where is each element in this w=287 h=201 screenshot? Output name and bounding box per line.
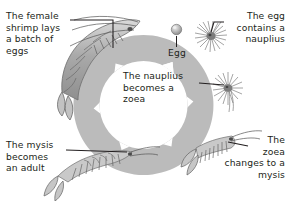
label-mysis-adult: The mysis becomes an adult bbox=[6, 139, 72, 174]
label-nauplius-zoea: The nauplius becomes a zoea bbox=[123, 70, 201, 105]
label-female-shrimp: The female shrimp lays a batch of eggs bbox=[6, 10, 84, 56]
label-egg: Egg bbox=[158, 47, 196, 59]
label-egg-nauplius: The egg contains a nauplius bbox=[213, 10, 285, 45]
label-zoea-mysis: The zoea changes to a mysis bbox=[209, 134, 285, 180]
life-cycle-diagram: The female shrimp lays a batch of eggs E… bbox=[0, 0, 287, 201]
illustration-egg bbox=[171, 24, 181, 34]
illustration-nauplius-zoea bbox=[213, 72, 243, 112]
